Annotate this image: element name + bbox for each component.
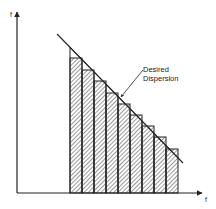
bar	[70, 58, 82, 193]
bar	[106, 93, 118, 193]
y-axis-label: f	[10, 11, 12, 18]
annotation-desired: Desired	[143, 65, 169, 74]
bar	[130, 115, 142, 193]
bar	[82, 70, 94, 193]
bar	[94, 81, 106, 193]
x-axis-label: f	[205, 196, 207, 203]
bar	[142, 126, 154, 193]
annotation-leader	[121, 70, 143, 97]
annotation-dispersion: Dispersion	[143, 74, 178, 83]
bar	[154, 137, 166, 193]
dispersion-diagram: f f Desired Dispersion	[0, 0, 216, 209]
bar	[118, 104, 130, 193]
